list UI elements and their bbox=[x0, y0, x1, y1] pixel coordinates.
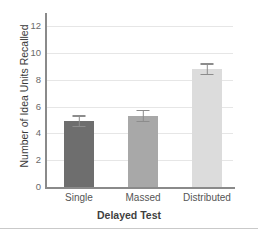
y-axis-tick-label: 10 bbox=[19, 48, 41, 58]
error-bar-cap-bottom bbox=[137, 121, 150, 122]
error-bar-cap-top bbox=[201, 63, 214, 64]
y-axis-tick-label: 8 bbox=[19, 75, 41, 85]
bar-series bbox=[45, 13, 235, 187]
x-axis-title: Delayed Test bbox=[0, 209, 258, 221]
y-axis-tick-label: 0 bbox=[19, 182, 41, 192]
error-bar bbox=[137, 110, 150, 122]
y-axis-tick-label: 4 bbox=[19, 128, 41, 138]
error-bar-cap-bottom bbox=[73, 126, 86, 127]
bar-chart-figure: Number of Idea Units Recalled 024681012 … bbox=[0, 0, 258, 235]
error-bar bbox=[73, 115, 86, 127]
bar-group bbox=[128, 13, 158, 187]
x-axis-tick-label: Distributed bbox=[157, 192, 257, 203]
x-axis-line bbox=[45, 187, 235, 189]
bottom-divider bbox=[0, 228, 258, 229]
bar-group bbox=[64, 13, 94, 187]
bar bbox=[64, 121, 94, 187]
error-bar-cap-top bbox=[73, 115, 86, 116]
error-bar bbox=[201, 63, 214, 75]
y-axis-tick-label: 6 bbox=[19, 102, 41, 112]
bar-group bbox=[192, 13, 222, 187]
y-axis-tick-label: 2 bbox=[19, 155, 41, 165]
y-axis-tick-label: 12 bbox=[19, 21, 41, 31]
bar bbox=[128, 116, 158, 187]
error-bar-cap-top bbox=[137, 110, 150, 111]
error-bar-cap-bottom bbox=[201, 74, 214, 75]
bar bbox=[192, 69, 222, 187]
